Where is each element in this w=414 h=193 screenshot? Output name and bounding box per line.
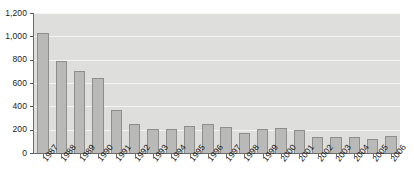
x-tick-mark — [244, 154, 245, 157]
y-tick-label: 600 — [13, 79, 27, 88]
x-tick-mark — [43, 154, 44, 157]
y-tick-label: 400 — [13, 102, 27, 111]
x-tick-mark — [318, 154, 319, 157]
y-tick-mark — [30, 130, 33, 131]
bars-group — [34, 13, 400, 153]
x-tick-mark — [153, 154, 154, 157]
y-tick-mark — [30, 60, 33, 61]
y-tick-mark — [30, 36, 33, 37]
y-tick-label: 0 — [22, 149, 27, 158]
x-tick-mark — [80, 154, 81, 157]
y-tick-label: 1,200 — [5, 9, 27, 18]
y-tick-label: 800 — [13, 55, 27, 64]
bar — [37, 33, 48, 153]
x-tick-mark — [263, 154, 264, 157]
y-tick-mark — [30, 83, 33, 84]
y-tick-mark — [30, 13, 33, 14]
x-tick-mark — [171, 154, 172, 157]
x-tick-mark — [116, 154, 117, 157]
x-tick-mark — [226, 154, 227, 157]
x-tick-mark — [281, 154, 282, 157]
bar-chart: 02004006008001,0001,200 1987198819891990… — [0, 0, 414, 193]
y-tick-mark — [30, 153, 33, 154]
x-tick-mark — [299, 154, 300, 157]
x-tick-mark — [391, 154, 392, 157]
y-tick-label: 200 — [13, 125, 27, 134]
x-tick-mark — [61, 154, 62, 157]
x-tick-mark — [336, 154, 337, 157]
x-tick-mark — [190, 154, 191, 157]
plot-area — [34, 13, 400, 153]
x-tick-mark — [135, 154, 136, 157]
bar — [56, 61, 67, 153]
x-tick-mark — [98, 154, 99, 157]
y-axis: 02004006008001,0001,200 — [0, 0, 30, 193]
x-tick-mark — [373, 154, 374, 157]
bar — [92, 78, 103, 153]
x-tick-mark — [354, 154, 355, 157]
y-tick-label: 1,000 — [5, 32, 27, 41]
x-tick-mark — [208, 154, 209, 157]
bar — [74, 71, 85, 153]
y-tick-mark — [30, 106, 33, 107]
